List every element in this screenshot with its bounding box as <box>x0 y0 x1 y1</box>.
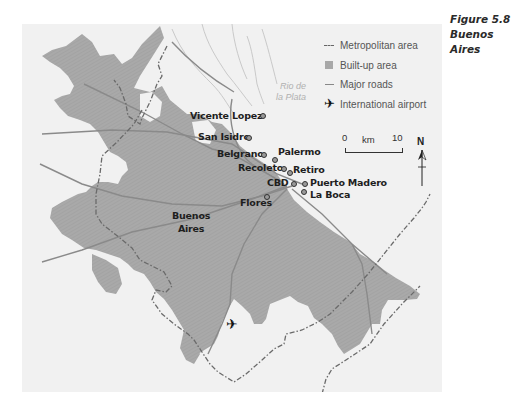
legend-item-major-roads: Major roads <box>322 75 426 95</box>
place-label-recoleto: Recoleto <box>238 162 283 173</box>
north-arrow: N <box>415 136 429 186</box>
place-dot <box>301 189 307 195</box>
legend-item-international-airport: ✈ International airport <box>322 95 426 115</box>
airport-icon: ✈ <box>226 316 238 332</box>
airplane-icon: ✈ <box>322 99 336 109</box>
legend-label: International airport <box>340 99 426 110</box>
legend-item-metropolitan-area: Metropolitan area <box>322 36 426 56</box>
figure-caption: Figure 5.8 Buenos Aires <box>450 12 515 57</box>
dash-dot-line-icon <box>322 45 336 46</box>
place-dot <box>264 194 270 200</box>
gray-square-icon <box>322 61 336 69</box>
place-label-la-boca: La Boca <box>310 189 350 200</box>
place-dot <box>281 166 287 172</box>
water-label: Rio de la Plata <box>276 81 306 103</box>
scale-start: 0 <box>342 132 347 143</box>
place-dot <box>246 135 252 141</box>
scale-unit: km <box>362 134 375 145</box>
place-label-vicente-lopez: Vicente Lopez <box>190 110 262 121</box>
legend-label: Metropolitan area <box>340 40 418 51</box>
solid-line-icon <box>322 84 336 85</box>
north-arrow-icon <box>415 148 429 188</box>
place-dot <box>291 181 297 187</box>
north-label: N <box>417 136 424 147</box>
scale-bar: 0 km 10 <box>342 132 408 160</box>
legend-label: Major roads <box>340 79 393 90</box>
figure-title: Buenos Aires <box>450 27 515 57</box>
legend-item-built-up-area: Built-up area <box>322 56 426 76</box>
scale-line <box>345 148 403 153</box>
place-label-palermo: Palermo <box>278 146 321 157</box>
place-label-cbd: CBD <box>267 177 289 188</box>
scale-end: 10 <box>392 132 403 143</box>
legend-label: Built-up area <box>340 60 397 71</box>
place-label-retiro: Retiro <box>293 164 325 175</box>
city-label-buenos-aires: Buenos Aires <box>172 209 210 235</box>
place-dot <box>302 181 308 187</box>
place-dot <box>260 113 266 119</box>
place-dot <box>287 170 293 176</box>
place-dot <box>261 152 267 158</box>
river-delta <box>172 24 277 114</box>
open-land <box>112 292 146 316</box>
built-up-area <box>92 254 122 294</box>
place-label-belgrano: Belgrano <box>217 148 264 159</box>
figure-number: Figure 5.8 <box>450 12 515 27</box>
place-label-puerto-madero: Puerto Madero <box>310 177 387 188</box>
place-label-san-isidro: San Isidro <box>198 131 250 142</box>
map-legend: Metropolitan area Built-up area Major ro… <box>322 36 426 114</box>
